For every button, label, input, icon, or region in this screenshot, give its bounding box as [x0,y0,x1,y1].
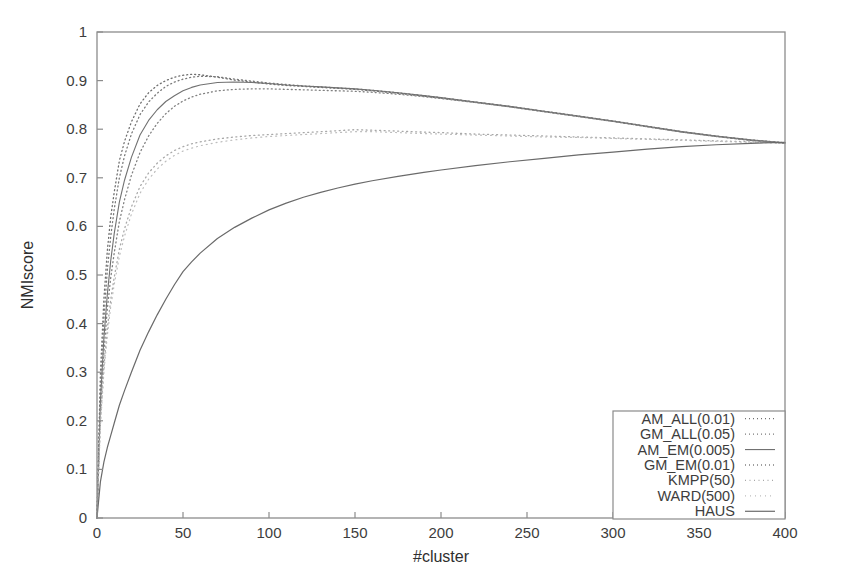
y-tick-label: 0.2 [66,412,87,429]
legend-label-5: WARD(500) [657,488,735,504]
x-axis-title: #cluster [413,548,470,565]
y-tick-label: 0.4 [66,315,87,332]
x-tick-label: 200 [428,524,453,541]
legend-label-2: AM_EM(0.005) [637,442,735,458]
x-tick-label: 100 [256,524,281,541]
chart-legend: AM_ALL(0.01)GM_ALL(0.05)AM_EM(0.005)GM_E… [613,411,785,520]
line-chart: 05010015020025030035040000.10.20.30.40.5… [0,0,844,588]
y-tick-label: 0.7 [66,169,87,186]
y-tick-label: 0.5 [66,266,87,283]
y-tick-label: 0.1 [66,460,87,477]
x-tick-label: 0 [93,524,101,541]
legend-label-6: HAUS [695,503,735,519]
x-tick-label: 300 [600,524,625,541]
y-tick-label: 0.6 [66,217,87,234]
x-tick-label: 50 [175,524,192,541]
legend-label-4: KMPP(50) [668,472,735,488]
legend-label-0: AM_ALL(0.01) [642,411,736,427]
x-tick-label: 400 [772,524,797,541]
y-tick-label: 0.8 [66,120,87,137]
y-tick-label: 0 [79,509,87,526]
y-tick-label: 1 [79,23,87,40]
legend-label-3: GM_EM(0.01) [644,457,735,473]
y-tick-label: 0.3 [66,363,87,380]
legend-label-1: GM_ALL(0.05) [640,426,735,442]
y-tick-label: 0.9 [66,72,87,89]
x-tick-label: 150 [342,524,367,541]
x-tick-label: 350 [686,524,711,541]
x-tick-label: 250 [514,524,539,541]
y-axis-title: NMIscore [19,241,36,310]
chart-figure: 05010015020025030035040000.10.20.30.40.5… [0,0,844,588]
